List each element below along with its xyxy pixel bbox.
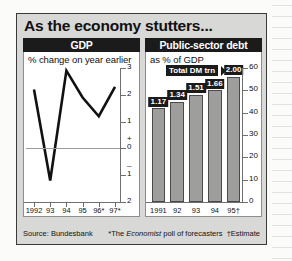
debt-bar-value-label: 1.51 bbox=[186, 83, 206, 93]
gdp-y-tick-line bbox=[121, 68, 126, 69]
debt-bar-value-label: 1.34 bbox=[167, 90, 187, 100]
gdp-y-tick-label: 1 bbox=[127, 169, 131, 178]
gdp-x-tick-label: 96* bbox=[93, 206, 104, 215]
debt-y-tick-line bbox=[243, 157, 248, 158]
gdp-y-tick-label: 2 bbox=[127, 196, 131, 205]
panel-gdp: GDP % change on year earlier 321+0–12 19… bbox=[23, 38, 140, 217]
debt-bar-value-label: 2.00 bbox=[224, 65, 244, 75]
panel-debt-title: Public-sector debt bbox=[145, 38, 262, 52]
debt-y-tick-line bbox=[243, 202, 248, 203]
source-note: Source: Bundesbank bbox=[23, 229, 93, 238]
debt-x-tick-label: 95† bbox=[227, 206, 240, 215]
debt-bar bbox=[189, 95, 203, 202]
debt-y-tick-label: 50 bbox=[249, 84, 258, 93]
debt-bar bbox=[170, 102, 184, 203]
debt-y-tick-line bbox=[243, 113, 248, 114]
gdp-y-tick-label: 2 bbox=[127, 89, 131, 98]
gdp-y-tick-label: 1 bbox=[127, 116, 131, 125]
footnote-star-prefix: *The bbox=[108, 229, 126, 238]
debt-y-tick-line bbox=[243, 135, 248, 136]
debt-y-tick-label: 20 bbox=[249, 151, 258, 160]
debt-bar bbox=[227, 77, 241, 202]
debt-bar bbox=[208, 90, 222, 202]
debt-y-axis: 0102030405060 bbox=[242, 68, 261, 202]
gdp-x-tick-label: 93 bbox=[46, 206, 54, 215]
gdp-y-tick-line bbox=[121, 122, 126, 123]
gdp-x-axis-labels: 199293949596*97* bbox=[24, 204, 121, 216]
debt-x-tick-label: 93 bbox=[192, 206, 200, 215]
figure-container: As the economy stutters... GDP % change … bbox=[16, 13, 267, 245]
debt-y-tick-label: 30 bbox=[249, 129, 258, 138]
debt-y-tick-label: 0 bbox=[249, 196, 253, 205]
panel-gdp-plot: % change on year earlier 321+0–12 199293… bbox=[23, 52, 140, 217]
debt-y-tick-label: 40 bbox=[249, 107, 258, 116]
footnote-publication: Economist bbox=[126, 229, 161, 238]
gdp-y-tick-line bbox=[121, 95, 126, 96]
debt-y-tick-line bbox=[243, 68, 248, 69]
footnotes: *The Economist poll of forecasters †Esti… bbox=[108, 229, 260, 238]
gdp-x-tick-label: 1992 bbox=[26, 206, 43, 215]
debt-bar-value-label: 1.17 bbox=[149, 97, 169, 107]
debt-annotation-label: Total DM trn bbox=[166, 65, 218, 76]
gdp-y-tick-line bbox=[121, 202, 126, 203]
debt-x-axis-labels: 199192939495† bbox=[146, 204, 243, 216]
debt-bar bbox=[152, 108, 166, 202]
gdp-x-tick-label: 95 bbox=[78, 206, 86, 215]
debt-y-tick-label: 60 bbox=[249, 62, 258, 71]
footnote-star-rest: poll of forecasters bbox=[161, 229, 222, 238]
gdp-x-tick-label: 97* bbox=[109, 206, 120, 215]
gdp-y-axis: 321+0–12 bbox=[120, 68, 139, 202]
gdp-y-tick-line bbox=[121, 175, 126, 176]
debt-x-tick-label: 92 bbox=[173, 206, 181, 215]
panel-debt: Public-sector debt as % of GDP 1.171.341… bbox=[145, 38, 262, 217]
debt-y-tick-line bbox=[243, 180, 248, 181]
panel-debt-plot: as % of GDP 1.171.341.511.662.00 Total D… bbox=[145, 52, 262, 217]
figure-footer: Source: Bundesbank *The Economist poll o… bbox=[23, 229, 260, 241]
gdp-x-tick-label: 94 bbox=[62, 206, 70, 215]
gdp-plus-sign: + bbox=[127, 135, 132, 142]
footnote-dagger: †Estimate bbox=[227, 229, 260, 238]
debt-x-tick-label: 94 bbox=[211, 206, 219, 215]
debt-x-tick-label: 1991 bbox=[150, 206, 167, 215]
panel-gdp-title: GDP bbox=[23, 38, 140, 52]
debt-annotation-arrow-icon bbox=[221, 66, 226, 76]
debt-y-tick-label: 10 bbox=[249, 174, 258, 183]
gdp-y-tick-label: 3 bbox=[127, 62, 131, 71]
gdp-zero-axis-line bbox=[26, 148, 121, 149]
gdp-y-tick-label: 0 bbox=[127, 142, 131, 151]
debt-y-tick-line bbox=[243, 90, 248, 91]
figure-headline: As the economy stutters... bbox=[24, 17, 213, 35]
debt-bar-value-label: 1.66 bbox=[205, 79, 225, 89]
gdp-minus-sign: – bbox=[127, 162, 131, 169]
gdp-y-tick-line bbox=[121, 148, 126, 149]
